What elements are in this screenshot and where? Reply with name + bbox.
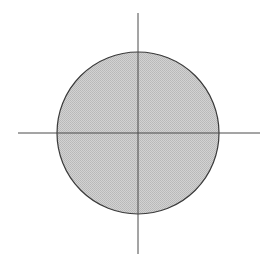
circle-diagram (0, 0, 270, 270)
